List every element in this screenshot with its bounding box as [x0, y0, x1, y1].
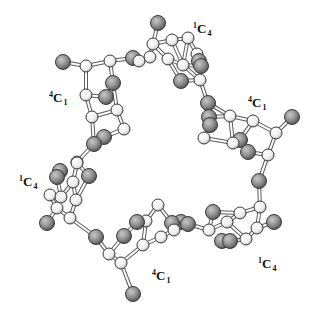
- oxygen-atom: [201, 96, 216, 111]
- carbon-atom: [64, 212, 76, 224]
- carbon-atom: [70, 194, 82, 206]
- carbon-atom: [86, 111, 98, 123]
- carbon-atom: [240, 233, 252, 245]
- carbon-atom: [155, 231, 167, 243]
- carbon-atom: [67, 176, 79, 188]
- carbon-atom: [103, 248, 115, 260]
- oxygen-atom: [206, 205, 221, 220]
- oxygen-atom: [50, 170, 65, 185]
- oxygen-atom: [241, 145, 256, 160]
- oxygen-atom: [203, 118, 218, 133]
- oxygen-atom: [126, 287, 141, 302]
- carbon-atom: [254, 201, 266, 213]
- label-4C1-bottom: 4C1: [152, 269, 170, 285]
- carbon-atom: [111, 104, 123, 116]
- oxygen-atom: [223, 234, 238, 249]
- carbon-atom: [104, 55, 116, 67]
- oxygen-atom: [285, 110, 300, 125]
- oxygen-atom: [40, 216, 55, 231]
- carbon-atom: [144, 51, 156, 63]
- carbon-atom: [147, 38, 159, 50]
- carbon-atom: [80, 89, 92, 101]
- carbon-atom: [234, 207, 246, 219]
- carbon-atom: [177, 59, 189, 71]
- label-1C4-bottom-right: 1C4: [258, 257, 276, 273]
- carbon-atom: [55, 191, 67, 203]
- oxygen-atom: [117, 229, 132, 244]
- carbon-atom: [162, 53, 174, 65]
- carbon-atom: [80, 60, 92, 72]
- carbon-atom: [194, 74, 206, 86]
- label-4C1-right: 4C1: [248, 96, 266, 112]
- carbon-atom: [247, 115, 259, 127]
- oxygen-atom: [174, 74, 189, 89]
- label-4C1-top-left: 4C1: [49, 91, 67, 107]
- label-1C4-top: 1C4: [193, 22, 211, 38]
- carbon-atom: [262, 149, 274, 161]
- carbon-atom: [137, 239, 149, 251]
- carbon-atom: [133, 55, 145, 67]
- carbon-atom: [203, 224, 215, 236]
- oxygen-atom: [194, 59, 209, 74]
- carbon-atom: [227, 137, 239, 149]
- carbon-atom: [118, 123, 130, 135]
- oxygen-atom: [252, 174, 267, 189]
- carbon-atom: [251, 222, 263, 234]
- oxygen-atom: [130, 215, 145, 230]
- oxygen-atom: [82, 169, 97, 184]
- oxygen-atom: [151, 16, 166, 31]
- oxygen-atom: [56, 55, 71, 70]
- oxygen-atom: [89, 230, 104, 245]
- carbon-atom: [115, 257, 127, 269]
- oxygen-atom: [87, 137, 102, 152]
- carbon-atom: [152, 199, 164, 211]
- carbon-atom: [166, 34, 178, 46]
- label-1C4-left: 1C4: [19, 175, 37, 191]
- carbon-atom: [224, 110, 236, 122]
- carbon-atom: [51, 202, 63, 214]
- carbon-atom: [168, 224, 180, 236]
- oxygen-atom: [106, 76, 121, 91]
- carbon-atom: [71, 157, 83, 169]
- oxygen-atom: [181, 217, 196, 232]
- oxygen-atom: [267, 215, 282, 230]
- carbon-atom: [270, 127, 282, 139]
- carbon-atom: [221, 216, 233, 228]
- carbon-atom: [44, 189, 56, 201]
- carbon-atom: [198, 132, 210, 144]
- oxygen-atom: [99, 90, 114, 105]
